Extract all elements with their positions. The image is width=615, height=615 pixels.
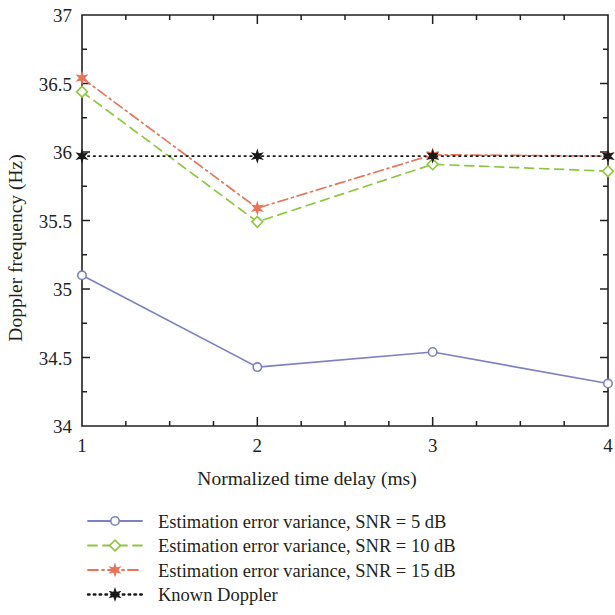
doppler-frequency-line-chart: 3434.53535.53636.537 1234 Normalized tim… [0, 0, 615, 615]
data-point-marker [604, 379, 612, 387]
y-tick-label: 34.5 [39, 348, 72, 369]
x-axis-title: Normalized time delay (ms) [197, 468, 416, 490]
series-1 [78, 271, 612, 388]
figure-container: 3434.53535.53636.537 1234 Normalized tim… [0, 0, 615, 615]
data-point-star [252, 203, 262, 214]
legend: Estimation error variance, SNR = 5 dBEst… [88, 512, 456, 606]
data-point-marker [78, 271, 86, 279]
data-point-marker [110, 540, 121, 551]
series-3 [77, 72, 613, 213]
data-point-marker [252, 203, 262, 214]
data-point-star [252, 151, 262, 162]
data-point-marker [253, 363, 261, 371]
x-tick-label: 2 [253, 435, 263, 456]
y-axis-tick-labels: 3434.53535.53636.537 [39, 5, 73, 437]
data-point-marker [428, 348, 436, 356]
x-tick-label: 4 [603, 435, 613, 456]
legend-item[interactable]: Known Doppler [88, 585, 278, 605]
axes-box [82, 15, 608, 426]
y-tick-label: 37 [53, 5, 72, 26]
y-tick-label: 36.5 [39, 74, 72, 95]
data-series-group [77, 72, 614, 387]
y-axis-ticks [82, 49, 608, 392]
x-axis-tick-labels: 1234 [77, 435, 613, 456]
series-line [82, 78, 608, 208]
data-point-marker [77, 72, 87, 83]
y-tick-label: 34 [53, 416, 73, 437]
data-point-marker [603, 166, 614, 177]
legend-item[interactable]: Estimation error variance, SNR = 10 dB [88, 536, 456, 556]
data-point-marker [252, 151, 262, 162]
x-tick-label: 3 [428, 435, 438, 456]
y-tick-label: 35.5 [39, 211, 72, 232]
legend-item[interactable]: Estimation error variance, SNR = 15 dB [88, 561, 456, 581]
legend-label: Estimation error variance, SNR = 15 dB [158, 561, 456, 581]
series-line [82, 275, 608, 383]
plot-frame [82, 15, 608, 426]
legend-item[interactable]: Estimation error variance, SNR = 5 dB [88, 512, 446, 532]
legend-label: Estimation error variance, SNR = 5 dB [158, 512, 446, 532]
x-tick-label: 1 [77, 435, 87, 456]
legend-label: Known Doppler [158, 585, 278, 605]
y-axis-title: Doppler frequency (Hz) [5, 154, 27, 341]
y-tick-label: 36 [53, 142, 72, 163]
data-point-star [77, 72, 87, 83]
data-point-marker [111, 517, 119, 525]
y-tick-label: 35 [53, 279, 72, 300]
legend-label: Estimation error variance, SNR = 10 dB [158, 536, 456, 556]
